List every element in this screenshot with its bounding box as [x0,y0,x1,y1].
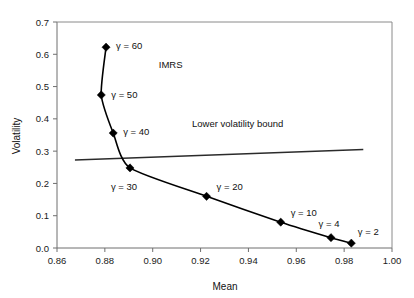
chart-container: 0.860.880.900.920.940.960.981.00 0.00.10… [0,0,414,298]
volatility-vs-mean-chart: 0.860.880.900.920.940.960.981.00 0.00.10… [0,0,414,298]
y-axis-title: Volatility [11,118,22,155]
x-tick-label: 0.88 [96,255,115,266]
gamma-label-20: γ = 20 [217,181,243,192]
gamma-label-40: γ = 40 [123,126,149,137]
gamma-label-10: γ = 10 [291,207,317,218]
x-tick-label: 0.86 [48,255,67,266]
imrs-annotation: IMRS [159,59,183,70]
gamma-label-30: γ = 30 [111,181,137,192]
x-tick-label: 0.96 [287,255,306,266]
gamma-label-4: γ = 4 [319,218,340,229]
y-tick-label: 0.6 [36,49,49,60]
y-tick-label: 0.2 [36,178,49,189]
gamma-label-2: γ = 2 [358,226,379,237]
x-axis-title: Mean [212,281,237,292]
y-tick-label: 0.7 [36,17,49,28]
x-tick-label: 0.92 [191,255,210,266]
y-tick-label: 0.0 [36,243,49,254]
gamma-label-50: γ = 50 [111,89,137,100]
x-tick-label: 1.00 [383,255,402,266]
y-tick-label: 0.5 [36,81,49,92]
x-tick-label: 0.90 [143,255,162,266]
chart-background [0,0,414,298]
y-tick-label: 0.3 [36,146,49,157]
gamma-label-60: γ = 60 [116,40,142,51]
x-tick-label: 0.98 [335,255,354,266]
y-tick-label: 0.4 [36,113,49,124]
y-tick-label: 0.1 [36,210,49,221]
x-tick-label: 0.94 [239,255,258,266]
lower-volatility-bound-annotation: Lower volatility bound [192,118,283,129]
